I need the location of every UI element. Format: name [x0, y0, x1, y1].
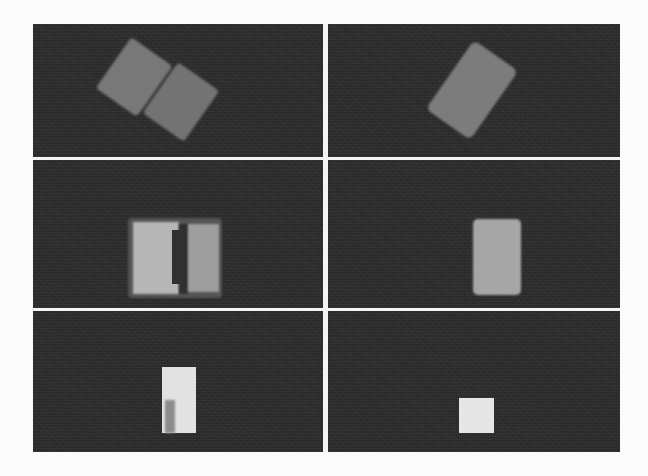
- shade-shape: [165, 400, 175, 433]
- block-right-shape: [188, 224, 219, 292]
- panel-r1c1: [33, 24, 323, 157]
- block-shape: [426, 40, 518, 140]
- figure-grid: [33, 24, 620, 452]
- block-shape: [473, 219, 521, 295]
- panel-r2c2: [328, 160, 620, 308]
- panel-r3c2: [328, 311, 620, 452]
- panel-r3c1: [33, 311, 323, 452]
- gap-shape: [179, 224, 188, 294]
- panel-r2c1: [33, 160, 323, 308]
- block-shape: [459, 398, 494, 433]
- panel-r1c2: [328, 24, 620, 157]
